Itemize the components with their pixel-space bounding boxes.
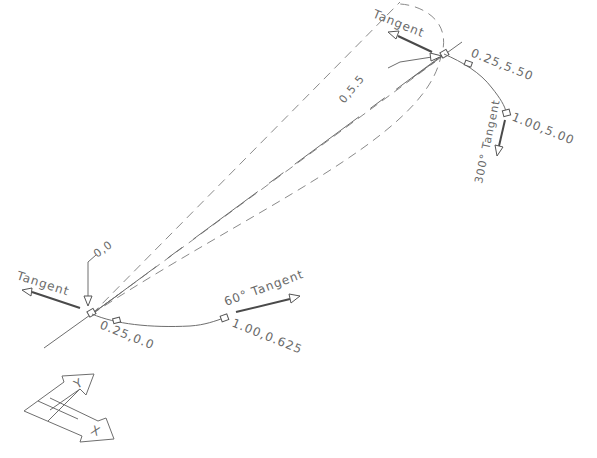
label-0-25-5-50: 0.25,5.50 — [469, 46, 536, 84]
ucs-icon — [24, 374, 114, 442]
far-tangent-label: 300° Tangent — [472, 98, 503, 184]
arrow-down-icon — [84, 296, 92, 306]
grip-0-25-5-50[interactable] — [464, 60, 472, 67]
hull-curve — [92, 4, 444, 314]
end-point-label: 0,5.5 — [336, 72, 367, 106]
label-0-5-5-leader — [388, 53, 442, 68]
start-tangent-label: Tangent — [14, 268, 71, 299]
ucs-y-label: Y — [71, 375, 86, 392]
end-point-marker[interactable] — [412, 42, 462, 78]
start-point-label: 0,0 — [91, 238, 115, 261]
label-0-0-leader — [84, 255, 96, 306]
label-1-00-0-625: 1.00,0.625 — [230, 316, 305, 357]
ucs-x-label: X — [89, 423, 103, 439]
grip-1-00-0-625[interactable] — [220, 314, 229, 322]
control-hull — [92, 2, 444, 314]
arrow-right-icon — [289, 294, 300, 303]
arrow-left-icon — [22, 288, 32, 296]
arrow-down-icon — [495, 145, 503, 156]
hull-line-upper — [92, 2, 400, 314]
label-1-00-5-00: 1.00,5.00 — [510, 110, 577, 148]
arrow-left-icon — [388, 31, 399, 39]
mid-tangent-label: 60° Tangent — [222, 267, 305, 309]
label-0-25-0-0: 0.25,0.0 — [98, 318, 157, 353]
drawing-canvas: 0,0 Tangent 0.25,0.0 60° Tangent 1.00,0.… — [0, 0, 597, 458]
end-axis-line — [412, 42, 462, 78]
spline-center-line[interactable] — [92, 54, 444, 314]
grip-1-00-5-00[interactable] — [502, 109, 510, 117]
